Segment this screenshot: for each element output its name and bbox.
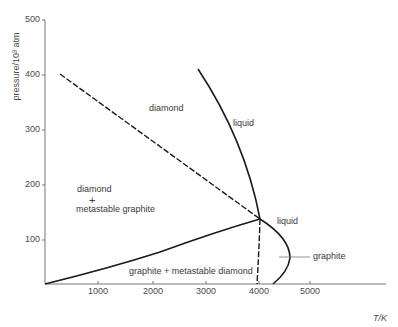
x-tick-4000: 4000	[239, 287, 279, 296]
graphite-melting-line	[260, 219, 290, 284]
label-diamond: diamond	[149, 104, 184, 113]
phase-diagram-plot	[0, 0, 398, 327]
x-axis-label: T/K	[373, 314, 387, 323]
x-tick-5000: 5000	[290, 287, 330, 296]
y-tick-200: 200	[10, 180, 40, 189]
label-graphite-plus-metastable-diamond: graphite + metastable diamond	[129, 267, 253, 276]
y-tick-500: 500	[10, 15, 40, 24]
label-diamond-plus: diamond	[77, 185, 112, 194]
x-tick-1000: 1000	[78, 287, 118, 296]
x-tick-3000: 3000	[186, 287, 226, 296]
x-tick-2000: 2000	[133, 287, 173, 296]
label-graphite: graphite	[313, 252, 346, 261]
label-liquid-right: liquid	[277, 217, 298, 226]
label-metastable-graphite: metastable graphite	[76, 205, 155, 214]
metastable-dashed-line	[257, 219, 260, 284]
label-liquid-upper: liquid	[233, 119, 254, 128]
y-tick-100: 100	[10, 235, 40, 244]
y-tick-300: 300	[10, 125, 40, 134]
y-axis-label: pressure/10³ atm	[12, 29, 21, 105]
